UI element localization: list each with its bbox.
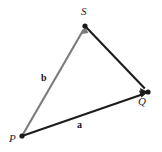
vertex-label-p: P [9, 133, 16, 144]
vector-a-group [22, 90, 148, 136]
vector-label-b: b [41, 73, 47, 83]
segment-sq-group [85, 26, 148, 95]
vertex-dot-q [145, 89, 150, 94]
vector-label-a: a [77, 120, 82, 130]
vertex-label-q: Q [138, 96, 146, 107]
vector-triangle-diagram: S P Q a b [0, 0, 162, 152]
vector-b-shaft [22, 30, 84, 137]
segment-sq-shaft [85, 26, 145, 89]
vector-a-shaft [22, 94, 144, 136]
vertex-dot-s [82, 23, 87, 28]
vertex-dot-p [19, 133, 24, 138]
vertex-label-s: S [81, 6, 87, 17]
